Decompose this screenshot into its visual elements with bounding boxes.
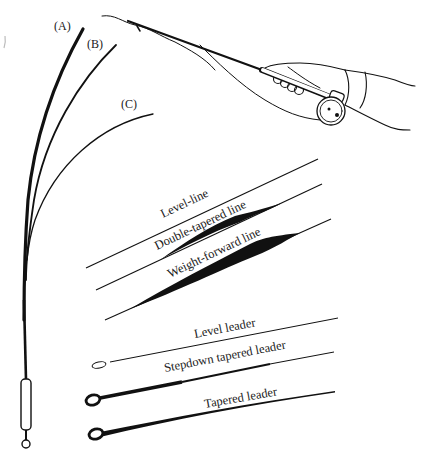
label-c: (C) [121,97,137,111]
label-b: (B) [87,37,103,51]
rod-flex-group: (A) (B) (C) [21,19,153,448]
stepdown-leader-tip [270,352,334,364]
hand-with-rod [102,16,415,130]
fly-lines: Level-line Double-tapered line Weight-fo… [86,159,331,320]
tapered-leader-loop [88,427,104,440]
label-a: (A) [54,19,71,33]
label-level-leader: Level leader [193,315,257,341]
rod-curve-c [27,114,153,260]
rod-butt-cap [22,440,30,448]
illustration: (A) (B) (C) [0,0,421,459]
stepdown-leader-butt [100,382,182,398]
level-leader-loop [92,361,107,370]
rod-butt [24,300,26,380]
stray-mark [4,36,5,48]
rod-handle [21,379,31,430]
rod-curve-a [24,29,83,320]
leaders: Level leader Stepdown tapered leader Tap… [85,315,338,440]
stepdown-leader-loop [85,393,101,406]
reel [317,97,345,125]
label-stepdown-tapered-leader: Stepdown tapered leader [163,337,288,374]
rod-curve-b [26,45,116,280]
